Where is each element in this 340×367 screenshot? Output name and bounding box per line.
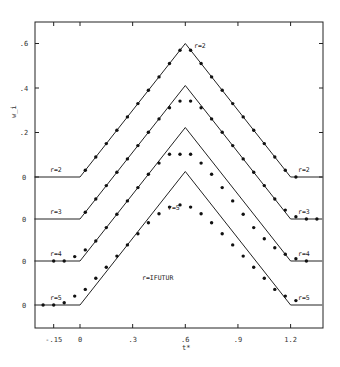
y-tick-label: 0 [22,174,26,182]
data-point [157,75,160,78]
data-point [221,232,224,235]
data-point [189,49,192,52]
data-point [94,155,97,158]
x-tick-label: .9 [234,336,242,344]
data-point [178,153,181,156]
x-tick-label: 0 [78,336,82,344]
data-point [115,213,118,216]
data-point [84,169,87,172]
data-point [115,129,118,132]
data-point [105,184,108,187]
data-point [242,213,245,216]
axis-ticks: -.150.3.6.91.2.6.4.20000 [20,22,323,344]
series-label-right: r=4 [298,250,310,258]
data-point [273,288,276,291]
data-point [168,153,171,156]
series-label-peak: r=2 [194,42,206,50]
data-point [52,259,55,262]
data-point [157,212,160,215]
data-point [252,266,255,269]
series-label-left: r=2 [50,166,62,174]
exact-curve-r-3 [34,86,322,220]
series-label-left: r=5 [50,294,62,302]
chart: -.150.3.6.91.2.6.4.20000 r=2r=2r=3r=3r=4… [0,0,340,367]
y-tick-label: 0 [22,216,26,224]
exact-curve-r-5 [34,172,322,306]
data-point [189,99,192,102]
data-point [105,266,108,269]
series-label-right: r=3 [298,208,310,216]
data-point [94,197,97,200]
data-point [84,288,87,291]
data-point [94,277,97,280]
data-point [115,254,118,257]
exact-curves [34,44,322,306]
data-point [189,153,192,156]
data-point [284,169,287,172]
data-point [126,157,129,160]
data-point [242,254,245,257]
data-point [210,173,213,176]
data-point [178,49,181,52]
data-point [199,212,202,215]
data-point [136,102,139,105]
data-point [84,211,87,214]
data-point [147,173,150,176]
plot-frame [35,22,323,328]
exact-curve-r-2 [34,44,322,178]
data-point [52,303,55,306]
data-point [305,217,308,220]
data-point [231,144,234,147]
y-tick-label: 0 [22,302,26,310]
data-point [147,221,150,224]
data-point [84,248,87,251]
data-point [263,184,266,187]
data-point [62,259,65,262]
annotation-label: r=IFUTUR [142,274,173,282]
y-tick-label: 0 [22,258,26,266]
data-point [168,62,171,65]
data-point [189,205,192,208]
data-point [126,243,129,246]
data-point [273,246,276,249]
data-point [199,62,202,65]
y-axis-label: w_i [10,105,18,118]
data-point [157,161,160,164]
y-tick-label: .4 [20,85,28,93]
y-tick-label: .2 [20,129,28,137]
data-point [231,102,234,105]
data-point [126,199,129,202]
data-point [157,117,160,120]
data-point [62,301,65,304]
data-point [263,237,266,240]
data-point [315,217,318,220]
data-point [210,221,213,224]
data-point [178,99,181,102]
data-point [147,89,150,92]
data-point [294,175,297,178]
data-point [136,186,139,189]
x-tick-label: -.15 [45,336,62,344]
data-point [221,89,224,92]
y-tick-label: .6 [20,40,28,48]
x-axis-label: t* [182,344,190,352]
series-labels: r=2r=2r=3r=3r=4r=4r=5r=5r=2r=5 [50,42,310,302]
data-point [242,115,245,118]
data-point [210,117,213,120]
data-point [73,294,76,297]
data-point [105,226,108,229]
data-point [263,277,266,280]
data-point [126,115,129,118]
data-point [94,239,97,242]
data-point [41,303,44,306]
series-label-peak-r5: r=5 [168,204,180,212]
exact-curve-r-4 [34,128,322,262]
data-point [199,161,202,164]
data-point [242,157,245,160]
x-tick-label: .3 [128,336,136,344]
series-label-left: r=4 [50,250,62,258]
data-point [252,226,255,229]
data-point [221,186,224,189]
data-point [105,142,108,145]
data-point [252,171,255,174]
